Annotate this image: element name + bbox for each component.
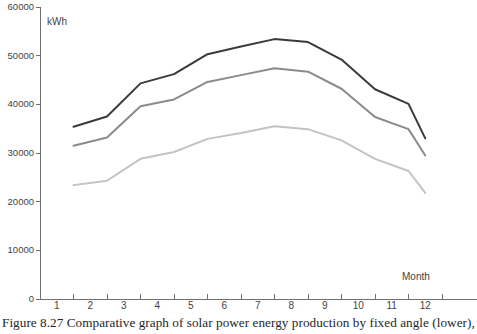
y-tick-label: 50000 [0, 51, 34, 61]
figure-container: kWh Month 010000200003000040000500006000… [0, 0, 477, 334]
chart-line-lower-curve [74, 126, 426, 193]
y-tick-label: 40000 [0, 99, 34, 109]
x-axis-title: Month [402, 272, 430, 282]
chart-line-upper-curve [74, 39, 426, 138]
x-tick-label: 10 [346, 301, 370, 311]
x-tick-label: 4 [145, 301, 169, 311]
chart-plot-area: kWh Month 010000200003000040000500006000… [0, 0, 477, 312]
y-tick-label: 30000 [0, 148, 34, 158]
chart-line-middle-curve [74, 68, 426, 155]
y-axis-title: kWh [47, 17, 67, 27]
x-tick-label: 5 [179, 301, 203, 311]
chart-series-group [74, 39, 426, 193]
figure-caption: Figure 8.27 Comparative graph of solar p… [2, 315, 477, 332]
x-tick-label: 12 [413, 301, 437, 311]
line-chart-svg [0, 0, 477, 312]
x-tick-label: 1 [45, 301, 69, 311]
x-tick-label: 6 [212, 301, 236, 311]
x-tick-label: 9 [313, 301, 337, 311]
y-tick-label: 20000 [0, 197, 34, 207]
y-tick-label: 60000 [0, 2, 34, 12]
x-tick-label: 7 [246, 301, 270, 311]
x-tick-label: 3 [112, 301, 136, 311]
chart-axes [36, 7, 477, 299]
x-tick-label: 11 [380, 301, 404, 311]
x-tick-label: 2 [78, 301, 102, 311]
y-tick-label: 0 [0, 294, 34, 304]
x-tick-label: 8 [279, 301, 303, 311]
y-tick-label: 10000 [0, 245, 34, 255]
